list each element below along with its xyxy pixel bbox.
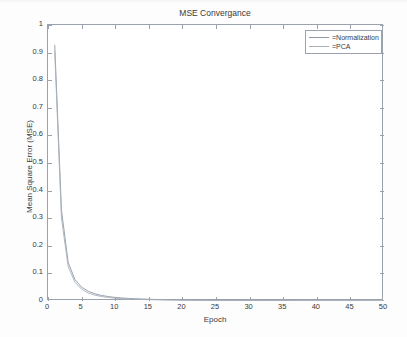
x-tick-label: 50 [371, 302, 395, 311]
legend-item: =Normalization [308, 33, 379, 42]
chart-legend: =Normalization =PCA [305, 30, 382, 54]
x-tick-label: 30 [237, 302, 261, 311]
series-line [55, 45, 384, 301]
plot-svg [48, 25, 384, 301]
chart-title: MSE Convergance [47, 8, 383, 18]
y-tick-label: 0.7 [17, 102, 43, 111]
y-tick-label: 0.4 [17, 185, 43, 194]
plot-area [47, 24, 383, 300]
x-tick-label: 40 [304, 302, 328, 311]
legend-item: =PCA [308, 42, 379, 51]
y-tick-label: 0.1 [17, 267, 43, 276]
y-tick-label: 0.9 [17, 47, 43, 56]
axis-tick-marks [48, 25, 384, 301]
x-tick-label: 35 [270, 302, 294, 311]
legend-label-normalization: =Normalization [332, 33, 379, 42]
x-tick-label: 10 [102, 302, 126, 311]
x-tick-label: 20 [169, 302, 193, 311]
x-tick-label: 5 [69, 302, 93, 311]
x-tick-label: 25 [203, 302, 227, 311]
window-top-band [0, 0, 407, 3]
legend-label-pca: =PCA [332, 42, 350, 51]
chart-screenshot: MSE Convergance Mean Square Error (MSE) … [0, 0, 407, 337]
legend-line-swatch-normalization [309, 37, 329, 38]
x-tick-label: 45 [337, 302, 361, 311]
series-line [55, 51, 384, 301]
y-tick-label: 0.6 [17, 129, 43, 138]
y-tick-label: 1 [17, 19, 43, 28]
legend-line-swatch-pca [309, 46, 329, 47]
x-axis-label: Epoch [47, 315, 383, 324]
data-series-group [55, 45, 384, 301]
y-tick-label: 0.2 [17, 240, 43, 249]
y-tick-label: 0 [17, 295, 43, 304]
x-tick-label: 15 [136, 302, 160, 311]
y-tick-label: 0.5 [17, 157, 43, 166]
y-tick-label: 0.8 [17, 74, 43, 83]
y-tick-label: 0.3 [17, 212, 43, 221]
